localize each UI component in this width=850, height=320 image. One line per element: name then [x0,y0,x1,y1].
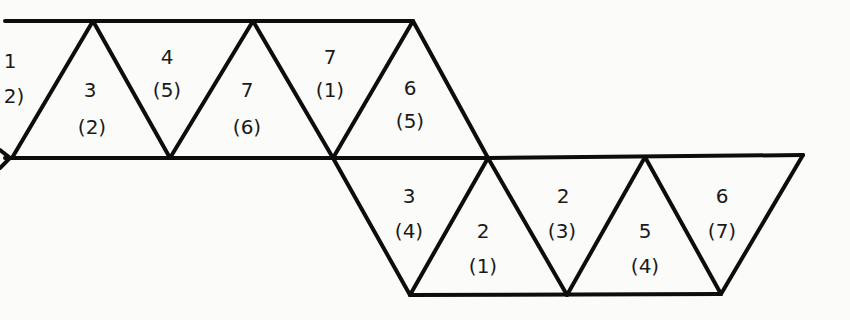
face-number: 4 [161,45,174,69]
face-paren-number: (4) [631,254,659,278]
triangle-edge [413,21,488,158]
face-paren-number: (1) [316,78,344,102]
face-number: 3 [84,78,97,102]
face-label-f10: 6(7) [708,184,736,243]
face-label-f3: 7(6) [233,78,261,139]
face-label-f8: 2(3) [548,184,576,243]
face-label-f2: 4(5) [153,45,181,102]
triangle-net-diagram: 12)3(2)4(5)7(6)7(1)6(5)3(4)2(1)2(3)5(4)6… [0,0,850,320]
face-number: 5 [639,219,652,243]
face-number: 7 [324,45,337,69]
face-number: 7 [241,78,254,102]
face-label-f0: 12) [4,49,25,108]
face-paren-number: (4) [395,219,423,243]
face-labels: 12)3(2)4(5)7(6)7(1)6(5)3(4)2(1)2(3)5(4)6… [4,45,737,278]
face-number: 2 [477,219,490,243]
face-number: 1 [4,49,17,73]
face-paren-number: (5) [396,109,424,133]
face-label-f9: 5(4) [631,219,659,278]
triangle-edge [333,21,413,158]
face-paren-number: (1) [469,254,497,278]
face-label-f6: 3(4) [395,184,423,243]
face-label-f4: 7(1) [316,45,344,102]
face-paren-number: (5) [153,78,181,102]
face-paren-number: (7) [708,219,736,243]
face-paren-number: (6) [233,115,261,139]
face-label-f1: 3(2) [78,78,106,139]
face-paren-number: (3) [548,219,576,243]
face-paren-number: (2) [78,115,106,139]
triangle-edges [5,21,803,295]
face-paren-number: 2) [4,84,25,108]
face-number: 2 [557,184,570,208]
face-number: 6 [716,184,729,208]
face-label-f7: 2(1) [469,219,497,278]
face-number: 3 [403,184,416,208]
triangle-edge [410,294,721,295]
face-number: 6 [404,76,417,100]
face-label-f5: 6(5) [396,76,424,133]
